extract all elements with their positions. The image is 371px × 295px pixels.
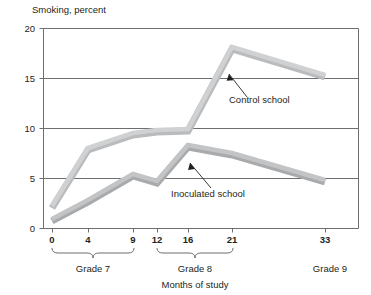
group-braces: [52, 248, 233, 258]
inoculated-school-line-shadow: [52, 147, 325, 221]
annotation-inoculated-school: Inoculated school: [171, 163, 245, 199]
x-tick-label-16: 16: [183, 234, 194, 245]
x-tick-label-9: 9: [130, 234, 135, 245]
group-labels: Grade 7 Grade 8 Grade 9: [76, 263, 347, 274]
y-tick-label-10: 10: [24, 123, 35, 134]
y-tick-label-0: 0: [30, 223, 35, 234]
chart-container: Smoking, percent 20 15 10 5: [0, 0, 371, 295]
group-label-grade-7: Grade 7: [76, 263, 110, 274]
y-tick-label-15: 15: [24, 73, 35, 84]
x-tick-label-4: 4: [85, 234, 91, 245]
brace-grade-7: [52, 248, 134, 258]
inoculated-school-annotation-label: Inoculated school: [171, 188, 245, 199]
smoking-percent-line-chart: Smoking, percent 20 15 10 5: [0, 0, 371, 295]
control-school-annotation-label: Control school: [229, 94, 290, 105]
inoculated-school-arrowhead-icon: [188, 163, 195, 170]
x-axis-title: Months of study: [161, 279, 228, 290]
x-tick-label-21: 21: [227, 234, 238, 245]
x-tick-label-0: 0: [49, 234, 54, 245]
inoculated-school-line: [52, 145, 325, 219]
y-tick-marks: [40, 29, 44, 229]
group-label-grade-9: Grade 9: [313, 263, 347, 274]
x-tick-marks: [53, 229, 326, 233]
series-control-school: [52, 47, 325, 208]
y-tick-label-20: 20: [24, 23, 35, 34]
group-label-grade-8: Grade 8: [178, 263, 212, 274]
inoculated-school-leader-line: [190, 163, 211, 188]
y-tick-labels: 20 15 10 5 0: [24, 23, 35, 234]
y-axis-title: Smoking, percent: [32, 4, 106, 15]
x-tick-label-12: 12: [152, 234, 163, 245]
y-tick-label-5: 5: [30, 173, 35, 184]
control-school-line: [52, 47, 325, 206]
brace-grade-8: [157, 248, 233, 258]
series-inoculated-school: [52, 145, 325, 221]
x-tick-label-33: 33: [320, 234, 331, 245]
x-tick-labels: 0 4 9 12 16 21 33: [49, 234, 330, 245]
